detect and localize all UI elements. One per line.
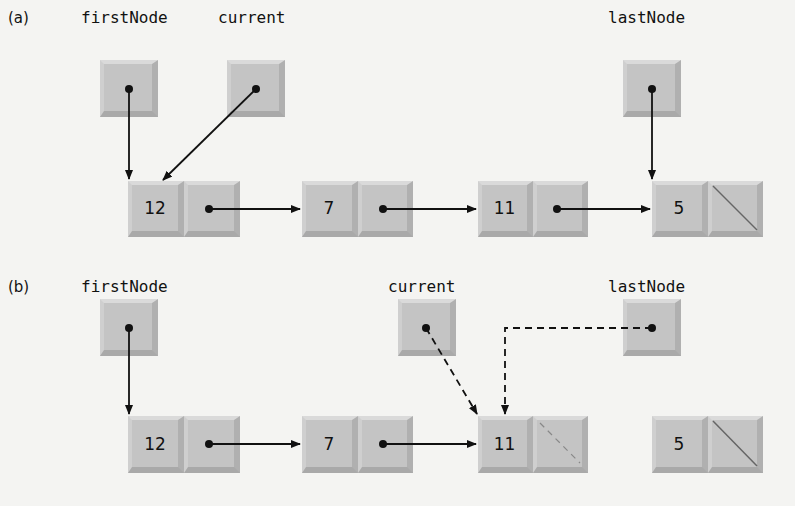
pointer-arrows bbox=[0, 0, 795, 506]
